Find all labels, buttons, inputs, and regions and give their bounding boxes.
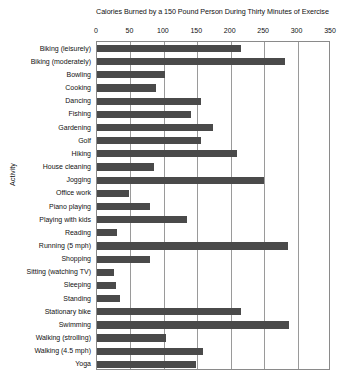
bar [97, 150, 237, 157]
bar-row [97, 95, 329, 108]
bar-row [97, 68, 329, 81]
y-category-label: Running (5 mph) [39, 240, 91, 249]
y-category-label: Standing [63, 293, 91, 302]
plot-area [96, 41, 330, 370]
bar [97, 242, 288, 249]
bar-row [97, 160, 329, 173]
bar-row [97, 121, 329, 134]
x-tick-label-350: 350 [324, 26, 336, 35]
y-axis-title: Activity [8, 163, 17, 186]
bar [97, 111, 191, 118]
bar [97, 124, 213, 131]
bar-row [97, 134, 329, 147]
bar [97, 71, 165, 78]
chart-title: Calories Burned by a 150 Pound Person Du… [96, 7, 346, 16]
y-category-label: Jogging [66, 175, 91, 184]
bar-row [97, 305, 329, 318]
bar [97, 295, 120, 302]
y-category-label: Sleeping [64, 280, 91, 289]
bar-row [97, 200, 329, 213]
x-tick-label-300: 300 [291, 26, 303, 35]
bar-row [97, 55, 329, 68]
bar [97, 177, 264, 184]
y-category-label: Biking (leisurely) [40, 43, 91, 52]
bar-row [97, 332, 329, 345]
bar [97, 334, 166, 341]
bar [97, 269, 114, 276]
bar [97, 256, 150, 263]
bar [97, 137, 201, 144]
bar-row [97, 108, 329, 121]
y-category-label: Swimming [59, 319, 91, 328]
y-category-label: Stationary bike [45, 306, 91, 315]
bar-row [97, 239, 329, 252]
bar [97, 229, 117, 236]
y-category-label: Biking (moderately) [31, 56, 91, 65]
bar-row [97, 318, 329, 331]
y-category-label: Yoga [75, 359, 91, 368]
y-category-label: Playing with kids [39, 214, 91, 223]
bars-layer [97, 42, 329, 369]
bar-row [97, 279, 329, 292]
x-tick-label-150: 150 [190, 26, 202, 35]
bar [97, 216, 187, 223]
bar-row [97, 213, 329, 226]
y-axis-category-labels: Biking (leisurely)Biking (moderately)Bow… [0, 41, 94, 370]
bar-row [97, 187, 329, 200]
bar [97, 203, 150, 210]
y-category-label: Cooking [65, 83, 91, 92]
y-category-label: Office work [56, 188, 91, 197]
bar [97, 58, 285, 65]
bar-row [97, 81, 329, 94]
y-category-label: Reading [65, 227, 91, 236]
y-category-label: House cleaning [43, 162, 91, 171]
bar [97, 45, 241, 52]
bar-row [97, 266, 329, 279]
bar [97, 348, 203, 355]
y-category-label: Walking (strolling) [36, 333, 91, 342]
bar [97, 282, 116, 289]
bar-row [97, 292, 329, 305]
bar [97, 321, 289, 328]
x-tick-label-100: 100 [157, 26, 169, 35]
bar-row [97, 226, 329, 239]
bar-row [97, 147, 329, 160]
y-category-label: Fishing [68, 109, 91, 118]
bar-row [97, 42, 329, 55]
bar [97, 163, 154, 170]
x-tick-label-0: 0 [94, 26, 98, 35]
bar [97, 361, 196, 368]
y-category-label: Sitting (watching TV) [27, 267, 91, 276]
y-category-label: Piano playing [49, 201, 91, 210]
x-tick-label-200: 200 [224, 26, 236, 35]
y-category-label: Dancing [65, 96, 91, 105]
y-category-label: Gardening [58, 122, 91, 131]
bar-row [97, 345, 329, 358]
bar [97, 98, 201, 105]
y-category-label: Walking (4.5 mph) [34, 346, 91, 355]
bar-row [97, 358, 329, 371]
y-category-label: Bowling [66, 69, 91, 78]
bar-row [97, 174, 329, 187]
x-tick-label-50: 50 [126, 26, 134, 35]
x-tick-label-250: 250 [257, 26, 269, 35]
bar-chart: Calories Burned by a 150 Pound Person Du… [0, 0, 350, 391]
bar [97, 308, 241, 315]
y-category-label: Golf [78, 135, 91, 144]
bar [97, 84, 156, 91]
y-category-label: Shopping [61, 254, 91, 263]
bar-row [97, 253, 329, 266]
x-axis-tick-labels: 050100150200250300350 [0, 26, 350, 38]
bar [97, 190, 129, 197]
y-category-label: Hiking [72, 148, 91, 157]
